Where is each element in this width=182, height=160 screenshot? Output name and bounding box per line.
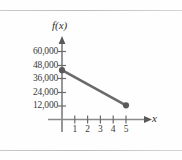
- x-tick-label-3: 3: [94, 124, 106, 134]
- x-tick-label-2: 2: [82, 124, 94, 134]
- y-axis-title: f(x): [52, 19, 67, 31]
- figure-container: 60,000 48,000 36,000 24,000 12,000 1 2 3…: [0, 0, 182, 160]
- x-tick-label-4: 4: [107, 124, 119, 134]
- x-tick-label-group: 1 2 3 4 5: [0, 0, 182, 160]
- x-tick-label-5: 5: [120, 124, 132, 134]
- x-axis-title: x: [152, 112, 157, 124]
- x-tick-label-1: 1: [69, 124, 81, 134]
